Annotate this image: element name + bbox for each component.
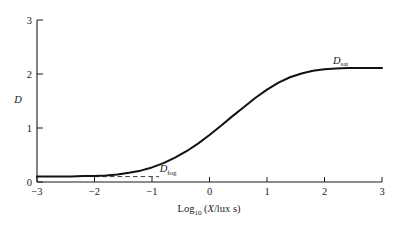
d-fog-label-sub: fog [167, 169, 177, 177]
characteristic-curve-chart: 0123 −3−2−10123 DsatDfog D Log10 (X/lux … [0, 0, 399, 227]
d-sat-label-sub: sat [341, 60, 349, 68]
x-tick-label-6: 3 [379, 186, 384, 197]
x-tick-label-5: 2 [322, 186, 327, 197]
x-axis-title-main: Log [177, 203, 195, 214]
x-axis-title-close: /lux s) [214, 203, 241, 215]
x-tick-label-1: −2 [89, 186, 100, 197]
y-axis-title: D [13, 94, 22, 105]
x-tick-label-4: 1 [264, 186, 269, 197]
x-tick-label-3: 0 [207, 186, 212, 197]
y-tick-label-3: 3 [27, 15, 32, 26]
chart-background [0, 0, 399, 227]
x-tick-label-2: −1 [146, 186, 157, 197]
x-tick-label-0: −3 [31, 186, 42, 197]
y-tick-label-1: 1 [27, 123, 32, 134]
y-tick-label-2: 2 [27, 69, 32, 80]
